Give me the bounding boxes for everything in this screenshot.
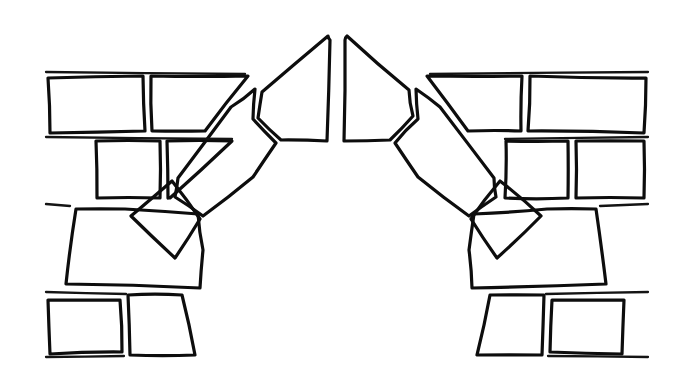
drawing-canvas (0, 0, 681, 382)
course-line-foot-right (548, 356, 648, 357)
pointed-arch-illustration (0, 0, 681, 382)
background (0, 0, 681, 382)
course-line-foot-left (46, 356, 124, 357)
